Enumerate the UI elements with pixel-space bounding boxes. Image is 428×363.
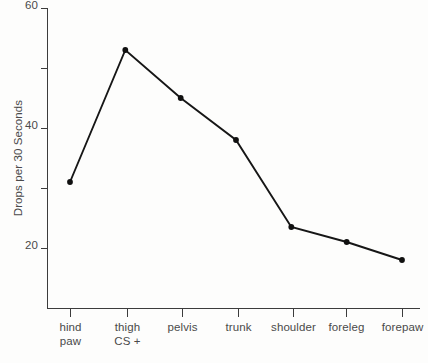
data-point [67,179,73,185]
y-tick-label-60: 60 [8,0,38,11]
series-line-drops [70,50,402,260]
data-point [122,47,128,53]
x-tick-label-forepaw: forepaw [352,320,428,334]
x-tick-label-line1: forepaw [382,321,424,333]
data-point [399,257,405,263]
data-point [288,224,294,230]
data-point [178,95,184,101]
data-point [233,137,239,143]
y-tick-marks [41,9,48,249]
data-point [344,239,350,245]
x-tick-marks [71,309,403,318]
x-tick-label-line2: CS + [77,334,178,348]
y-tick-label-20: 20 [8,239,38,251]
y-axis-title: Drops per 30 Seconds [12,78,24,238]
series-markers [67,47,405,263]
